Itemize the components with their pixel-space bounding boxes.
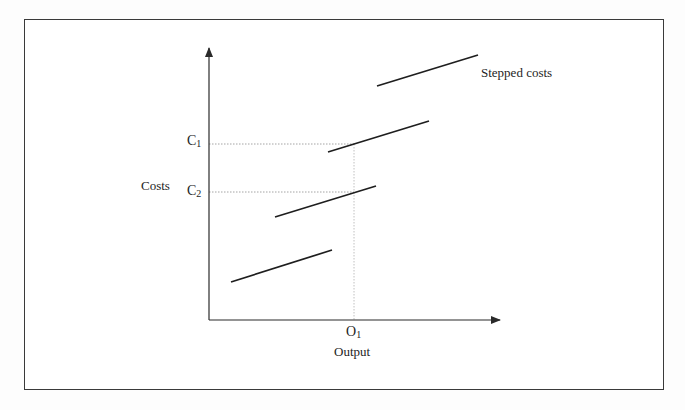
y-tick-c2: C2 — [187, 184, 201, 198]
cost-step-3 — [328, 121, 429, 152]
y-tick-c2-main: C — [187, 183, 196, 198]
figure-page: Costs C1 C2 O1 Output Stepped costs — [0, 0, 685, 410]
x-tick-o1-main: O — [346, 324, 356, 339]
y-axis-label: Costs — [141, 179, 170, 192]
x-tick-o1-sub: 1 — [356, 329, 361, 340]
cost-step-4 — [377, 55, 478, 86]
cost-step-2 — [275, 186, 376, 217]
y-tick-c1: C1 — [187, 134, 201, 148]
x-tick-o1: O1 — [346, 325, 361, 339]
y-tick-c1-sub: 1 — [196, 138, 201, 149]
y-tick-c2-sub: 2 — [196, 188, 201, 199]
x-axis-label: Output — [334, 345, 370, 358]
series-label-stepped-costs: Stepped costs — [481, 66, 552, 79]
y-tick-c1-main: C — [187, 133, 196, 148]
cost-step-1 — [231, 250, 332, 282]
